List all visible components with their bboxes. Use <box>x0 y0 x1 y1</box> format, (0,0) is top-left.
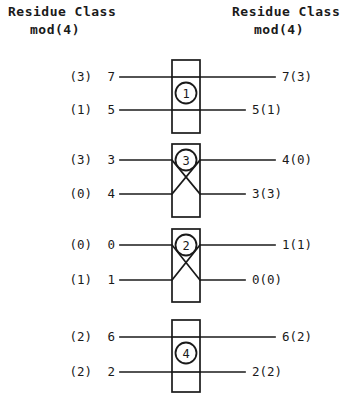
left-residue-class: (0) <box>52 187 92 200</box>
right-output-label: 4(0) <box>282 153 312 166</box>
right-output-label: 7(3) <box>282 70 312 83</box>
left-residue-class: (3) <box>52 153 92 166</box>
comparator-badge-number: 4 <box>182 347 189 361</box>
left-residue-class: (3) <box>52 70 92 83</box>
right-output-label: 2(2) <box>252 365 282 378</box>
left-input-value: 7 <box>99 70 115 83</box>
comparator-badge-number: 3 <box>182 154 189 168</box>
left-input-value: 6 <box>99 330 115 343</box>
right-output-label: 0(0) <box>252 273 282 286</box>
left-residue-class: (0) <box>52 238 92 251</box>
left-input-value: 0 <box>99 238 115 251</box>
left-residue-class: (2) <box>52 330 92 343</box>
left-input-value: 4 <box>99 187 115 200</box>
left-input-value: 5 <box>99 103 115 116</box>
comparator-badge-number: 2 <box>182 239 189 253</box>
left-residue-class: (1) <box>52 273 92 286</box>
right-output-label: 3(3) <box>252 187 282 200</box>
right-output-label: 1(1) <box>282 238 312 251</box>
left-input-value: 1 <box>99 273 115 286</box>
left-residue-class: (1) <box>52 103 92 116</box>
comparator-badge-number: 1 <box>182 87 189 101</box>
right-output-label: 5(1) <box>252 103 282 116</box>
right-output-label: 6(2) <box>282 330 312 343</box>
left-input-value: 2 <box>99 365 115 378</box>
diagram-canvas: Residue Class mod(4) Residue Class mod(4… <box>0 0 360 400</box>
left-input-value: 3 <box>99 153 115 166</box>
left-residue-class: (2) <box>52 365 92 378</box>
